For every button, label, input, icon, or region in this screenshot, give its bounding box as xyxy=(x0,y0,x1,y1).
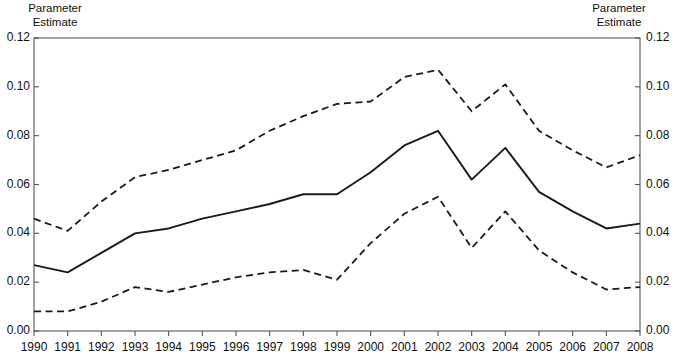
y-tick-label-right: 0.02 xyxy=(646,274,675,288)
line-chart-plot xyxy=(0,0,675,361)
series-line-lower-confidence-limit xyxy=(34,197,640,312)
y-tick-label-left: 0.02 xyxy=(0,274,30,288)
y-tick-label-right: 0.06 xyxy=(646,177,675,191)
left-axis-title: Parameter Estimate xyxy=(8,2,102,29)
y-tick-label-right: 0.12 xyxy=(646,30,675,44)
y-tick-label-left: 0.00 xyxy=(0,323,30,337)
x-axis-ticks xyxy=(34,331,640,336)
chart-figure: Parameter Estimate Parameter Estimate 0.… xyxy=(0,0,675,361)
y-tick-label-left: 0.04 xyxy=(0,225,30,239)
y-tick-label-right: 0.04 xyxy=(646,225,675,239)
data-series-layer xyxy=(34,70,640,312)
series-line-upper-confidence-limit xyxy=(34,70,640,231)
x-tick-label: 2008 xyxy=(620,340,660,354)
y-tick-label-left: 0.12 xyxy=(0,30,30,44)
y-tick-label-right: 0.00 xyxy=(646,323,675,337)
y-tick-label-left: 0.10 xyxy=(0,79,30,93)
right-axis-title: Parameter Estimate xyxy=(569,2,669,29)
y-tick-label-right: 0.10 xyxy=(646,79,675,93)
y-tick-label-left: 0.08 xyxy=(0,128,30,142)
series-line-parameter-estimate xyxy=(34,131,640,273)
y-tick-label-left: 0.06 xyxy=(0,177,30,191)
y-axis-ticks-left xyxy=(34,38,39,331)
y-tick-label-right: 0.08 xyxy=(646,128,675,142)
